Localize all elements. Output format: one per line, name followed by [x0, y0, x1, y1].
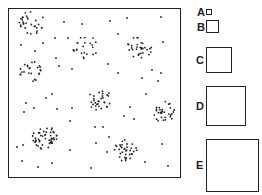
quadrat-b: [206, 20, 219, 33]
quadrat-e: [206, 139, 259, 192]
quadrat-label-c: C: [196, 55, 204, 66]
quadrat-d: [206, 86, 246, 126]
quadrat-label-a: A: [197, 7, 205, 18]
quadrat-label-e: E: [196, 160, 203, 171]
quadrat-a: [206, 9, 212, 15]
quadrat-label-d: D: [196, 101, 204, 112]
quadrat-label-b: B: [197, 22, 205, 33]
quadrat-c: [206, 47, 232, 73]
